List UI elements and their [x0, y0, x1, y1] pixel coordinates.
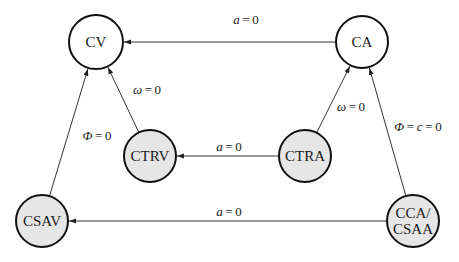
edge-label-cca-csaa-to-ca: Φ = c = 0	[394, 119, 441, 134]
node-label: CA	[352, 34, 373, 50]
node-cca-csaa: CCA/CSAA	[387, 195, 439, 247]
node-cv: CV	[69, 15, 123, 69]
motion-model-transition-diagram: CVCACTRVCTRACSAVCCA/CSAA a = 0ω = 0Φ = 0…	[0, 0, 459, 262]
node-ca: CA	[336, 16, 388, 68]
node-label: CTRA	[285, 148, 325, 164]
node-label: CCA/	[395, 205, 431, 221]
node-label: CSAA	[393, 221, 433, 237]
edge-label-cca-csaa-to-csav: a = 0	[216, 204, 242, 219]
node-label: CSAV	[23, 213, 61, 229]
edge-label-ctra-to-ca: ω = 0	[337, 99, 365, 114]
edge-label-ca-to-cv: a = 0	[233, 12, 259, 27]
node-ctrv: CTRV	[124, 130, 176, 182]
edge-label-ctrv-to-cv: ω = 0	[133, 82, 161, 97]
edge-ctrv-to-cv	[108, 67, 139, 132]
edge-label-ctra-to-ctrv: a = 0	[216, 139, 242, 154]
node-csav: CSAV	[16, 195, 68, 247]
node-ctra: CTRA	[279, 130, 331, 182]
node-label: CTRV	[131, 148, 170, 164]
node-label: CV	[86, 34, 107, 50]
edge-label-csav-to-cv: Φ = 0	[83, 128, 112, 143]
